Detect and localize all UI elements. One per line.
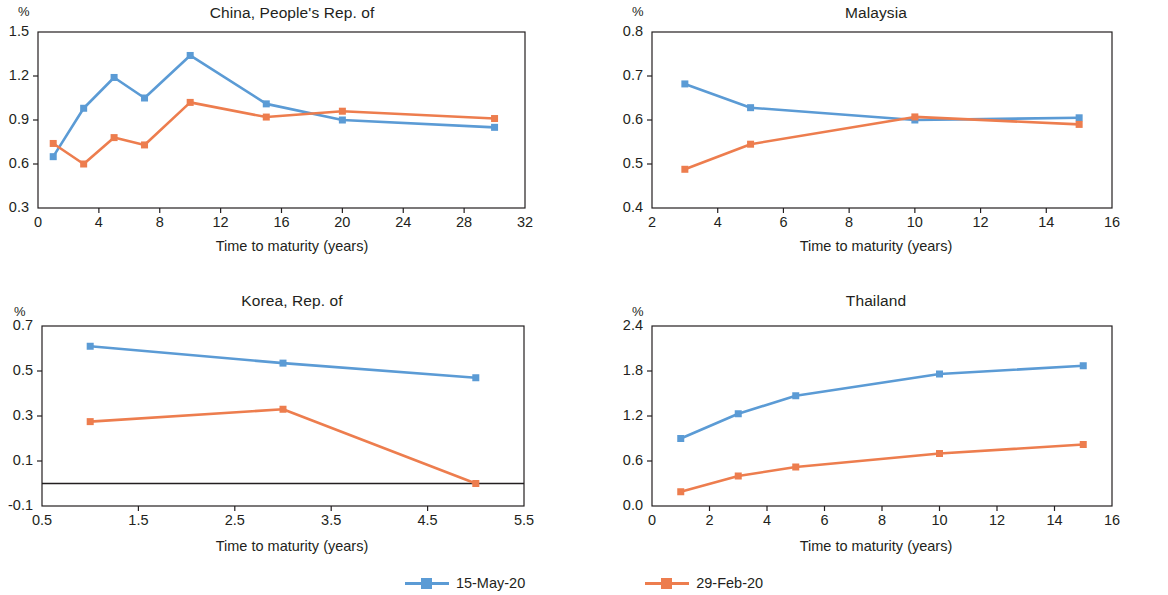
square-marker-icon xyxy=(421,578,432,589)
data-point-marker xyxy=(472,374,479,381)
series-line-29-feb-20 xyxy=(90,409,476,483)
x-tick-label: 2.5 xyxy=(225,512,245,528)
data-point-marker xyxy=(141,141,148,148)
x-tick-label: 0 xyxy=(34,214,42,230)
data-point-marker xyxy=(1080,362,1087,369)
x-tick-label: 12 xyxy=(989,512,1005,528)
y-tick-label: 0.5 xyxy=(13,362,33,378)
y-tick-label: 0.4 xyxy=(623,199,643,215)
x-tick-label: 12 xyxy=(213,214,229,230)
x-tick-label: 16 xyxy=(1104,512,1120,528)
y-tick-label: 0.7 xyxy=(623,67,643,83)
y-tick-label: 0.8 xyxy=(623,23,643,39)
data-point-marker xyxy=(735,410,742,417)
data-point-marker xyxy=(677,435,684,442)
x-tick-label: 16 xyxy=(1104,214,1120,230)
data-point-marker xyxy=(911,113,918,120)
plot-area-thailand: 0.00.61.21.82.40246810121416 xyxy=(584,290,1168,530)
x-tick-label: 4.5 xyxy=(418,512,438,528)
x-tick-label: 10 xyxy=(931,512,947,528)
y-tick-label: 0.0 xyxy=(623,497,643,513)
y-tick-label: 0.3 xyxy=(9,199,29,215)
x-tick-label: 0.5 xyxy=(32,512,52,528)
data-point-marker xyxy=(472,480,479,487)
plot-frame xyxy=(652,32,1112,208)
x-tick-label: 14 xyxy=(1046,512,1062,528)
data-point-marker xyxy=(187,99,194,106)
data-point-marker xyxy=(111,134,118,141)
x-tick-label: 28 xyxy=(456,214,472,230)
data-point-marker xyxy=(681,80,688,87)
x-tick-label: 6 xyxy=(779,214,787,230)
plot-frame xyxy=(38,32,525,208)
y-tick-label: 2.4 xyxy=(623,317,643,333)
x-axis-title-china: Time to maturity (years) xyxy=(0,238,584,254)
series-line-29-feb-20 xyxy=(53,102,494,164)
x-tick-label: 1.5 xyxy=(128,512,148,528)
chart-panel-china: China, People's Rep. of % 0.30.60.91.21.… xyxy=(0,0,584,278)
data-point-marker xyxy=(677,488,684,495)
data-point-marker xyxy=(936,450,943,457)
y-tick-label: 0.7 xyxy=(13,317,33,333)
series-line-15-may-20 xyxy=(681,366,1084,439)
y-tick-label: 0.6 xyxy=(623,111,643,127)
plot-area-malaysia: 0.40.50.60.70.8246810121416 xyxy=(584,0,1168,240)
y-tick-label: 0.3 xyxy=(13,407,33,423)
x-tick-label: 32 xyxy=(517,214,533,230)
x-tick-label: 5.5 xyxy=(514,512,534,528)
x-tick-label: 4 xyxy=(95,214,103,230)
x-tick-label: 2 xyxy=(648,214,656,230)
x-tick-label: 16 xyxy=(273,214,289,230)
data-point-marker xyxy=(111,74,118,81)
data-point-marker xyxy=(1080,441,1087,448)
x-tick-label: 2 xyxy=(705,512,713,528)
y-tick-label: 1.2 xyxy=(9,67,29,83)
data-point-marker xyxy=(491,124,498,131)
data-point-marker xyxy=(747,104,754,111)
y-tick-label: 0.6 xyxy=(9,155,29,171)
legend-label-15-may-20: 15-May-20 xyxy=(456,575,525,591)
data-point-marker xyxy=(1076,114,1083,121)
data-point-marker xyxy=(280,360,287,367)
x-axis-title-thailand: Time to maturity (years) xyxy=(584,538,1168,554)
data-point-marker xyxy=(936,371,943,378)
data-point-marker xyxy=(80,105,87,112)
x-tick-label: 24 xyxy=(395,214,411,230)
series-line-29-feb-20 xyxy=(685,117,1079,169)
data-point-marker xyxy=(141,95,148,102)
x-tick-label: 8 xyxy=(878,512,886,528)
y-tick-label: 1.2 xyxy=(623,407,643,423)
y-tick-label: 0.5 xyxy=(623,155,643,171)
x-tick-label: 14 xyxy=(1038,214,1054,230)
legend-item-15-may-20[interactable]: 15-May-20 xyxy=(405,575,525,591)
legend-label-29-feb-20: 29-Feb-20 xyxy=(696,575,763,591)
x-tick-label: 0 xyxy=(648,512,656,528)
data-point-marker xyxy=(80,161,87,168)
chart-panel-korea: Korea, Rep. of % -0.10.10.30.50.70.51.52… xyxy=(0,290,584,568)
data-point-marker xyxy=(681,166,688,173)
data-point-marker xyxy=(747,141,754,148)
x-tick-label: 3.5 xyxy=(321,512,341,528)
data-point-marker xyxy=(339,108,346,115)
data-point-marker xyxy=(1076,121,1083,128)
data-point-marker xyxy=(735,473,742,480)
data-point-marker xyxy=(792,464,799,471)
data-point-marker xyxy=(792,392,799,399)
x-tick-label: 4 xyxy=(714,214,722,230)
data-point-marker xyxy=(280,406,287,413)
series-line-15-may-20 xyxy=(53,55,494,156)
data-point-marker xyxy=(87,343,94,350)
legend: 15-May-20 29-Feb-20 xyxy=(0,575,1168,591)
y-tick-label: 1.8 xyxy=(623,362,643,378)
x-tick-label: 8 xyxy=(845,214,853,230)
x-axis-title-malaysia: Time to maturity (years) xyxy=(584,238,1168,254)
series-line-29-feb-20 xyxy=(681,445,1084,492)
yield-curve-figure: China, People's Rep. of % 0.30.60.91.21.… xyxy=(0,0,1168,595)
y-tick-label: -0.1 xyxy=(8,497,33,513)
x-tick-label: 10 xyxy=(907,214,923,230)
x-axis-title-korea: Time to maturity (years) xyxy=(0,538,584,554)
legend-item-29-feb-20[interactable]: 29-Feb-20 xyxy=(645,575,763,591)
x-tick-label: 6 xyxy=(820,512,828,528)
data-point-marker xyxy=(50,140,57,147)
chart-panel-thailand: Thailand % 0.00.61.21.82.40246810121416 … xyxy=(584,290,1168,568)
